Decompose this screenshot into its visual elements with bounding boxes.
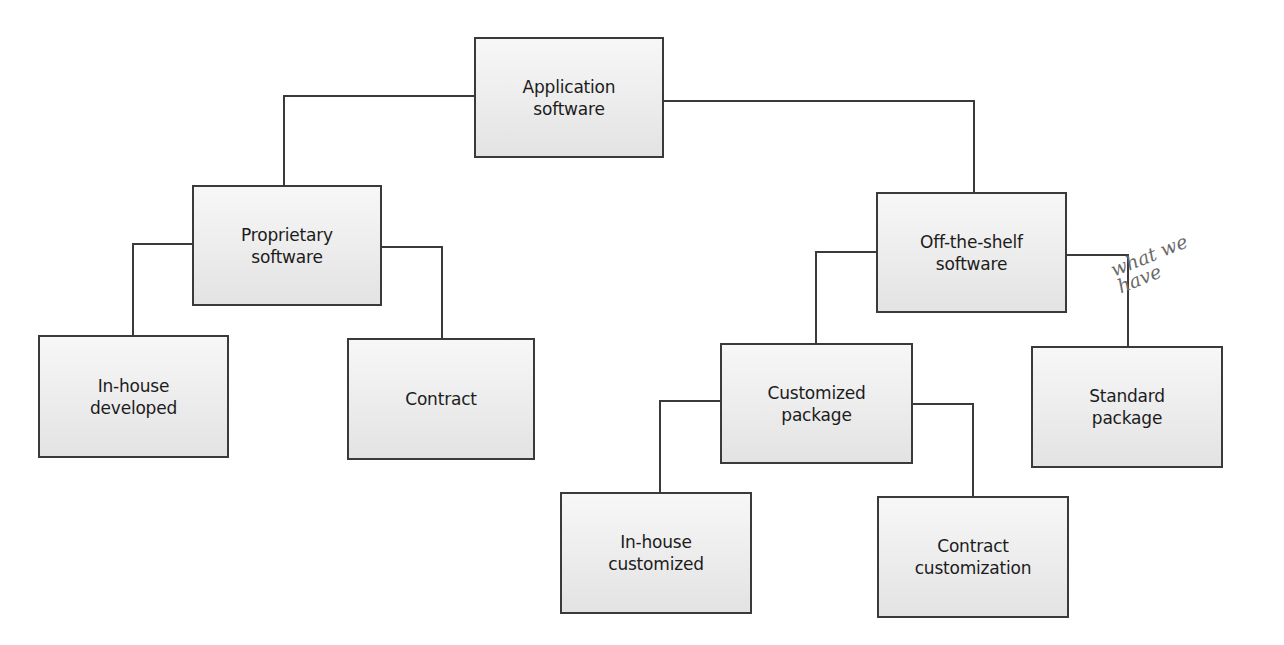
node-label: Customized package xyxy=(767,382,865,426)
node-in-house-developed: In-house developed xyxy=(38,335,229,458)
node-label: Proprietary software xyxy=(241,224,333,268)
edge-customized-contract-customization xyxy=(912,404,973,497)
node-label: Standard package xyxy=(1089,385,1165,429)
edge-root-off-the-shelf xyxy=(663,101,974,193)
edge-root-proprietary xyxy=(284,96,474,186)
edge-proprietary-contract xyxy=(381,247,442,339)
node-contract: Contract xyxy=(347,338,535,460)
node-in-house-customized: In-house customized xyxy=(560,492,752,614)
node-application-software: Application software xyxy=(474,37,664,158)
node-standard-package: Standard package xyxy=(1031,346,1223,468)
node-proprietary-software: Proprietary software xyxy=(192,185,382,306)
node-label: In-house developed xyxy=(90,375,177,419)
node-contract-customization: Contract customization xyxy=(877,496,1069,618)
node-label: Application software xyxy=(523,76,616,120)
edge-customized-in-house-customized xyxy=(660,401,720,493)
node-label: Off-the-shelf software xyxy=(920,231,1023,275)
node-off-the-shelf-software: Off-the-shelf software xyxy=(876,192,1067,313)
tree-diagram: Application software Proprietary softwar… xyxy=(0,0,1284,645)
node-label: Contract customization xyxy=(915,535,1032,579)
node-customized-package: Customized package xyxy=(720,343,913,464)
edge-off-the-shelf-customized-package xyxy=(816,252,876,344)
edge-proprietary-in-house-developed xyxy=(133,244,192,336)
node-label: Contract xyxy=(405,388,477,410)
node-label: In-house customized xyxy=(608,531,704,575)
